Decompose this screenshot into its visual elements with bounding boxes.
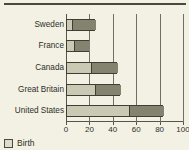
bar-segment-other [96,85,121,95]
stacked-bar [66,84,120,96]
bar-segment-birth [67,63,92,73]
category-label: Sweden [34,20,64,29]
top-divider-rule [4,3,186,5]
category-label: Great Britain [18,85,64,94]
x-tick-label: 80 [155,125,164,134]
stacked-bar [66,40,89,52]
bar-segment-birth [67,85,96,95]
x-tick-label: 100 [176,125,189,134]
stacked-bar [66,19,95,31]
x-tick-label: 20 [85,125,94,134]
x-tick-label: 60 [132,125,141,134]
bar-row: Sweden [0,14,189,36]
bar-segment-birth [67,41,75,51]
legend-label-birth: Birth [17,138,34,148]
category-label: France [39,41,64,50]
category-label: Canada [35,63,64,72]
chart-figure: 020406080100 SwedenFranceCanadaGreat Bri… [0,0,189,150]
bar-segment-other [75,41,90,51]
stacked-bar [66,62,117,74]
bar-row: Great Britain [0,79,189,101]
bar-row: United States [0,100,189,122]
bar-segment-other [130,106,164,116]
chart-legend: Birth [4,138,34,148]
bar-segment-birth [67,106,130,116]
x-tick-label: 0 [64,125,68,134]
category-label: United States [15,106,64,115]
x-tick-label: 40 [108,125,117,134]
bar-row: France [0,36,189,58]
stacked-bar [66,105,163,117]
legend-swatch-birth [4,139,13,148]
bar-segment-other [92,63,119,73]
bar-segment-other [73,20,96,30]
bar-row: Canada [0,57,189,79]
